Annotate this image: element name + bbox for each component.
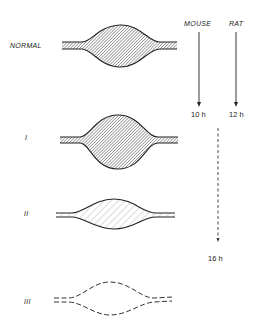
mouse-arrow [197,32,201,107]
time-mouse: 10 h [191,110,206,119]
time-extended: 16 h [208,254,223,263]
label-normal: NORMAL [10,42,42,49]
label-mouse: MOUSE [184,20,211,27]
label-rat: RAT [229,20,243,27]
extended-dashed-arrow [217,128,220,242]
rat-arrow [234,32,238,107]
label-stage-3: III [24,298,31,305]
stage-1-shape [60,115,178,169]
normal-shape [62,25,177,67]
stage-3-shape [54,282,172,315]
label-stage-1: I [25,134,27,141]
stage-2-shape [56,199,175,229]
label-stage-2: II [24,210,29,217]
time-rat: 12 h [229,110,244,119]
diagram-canvas [0,0,258,331]
